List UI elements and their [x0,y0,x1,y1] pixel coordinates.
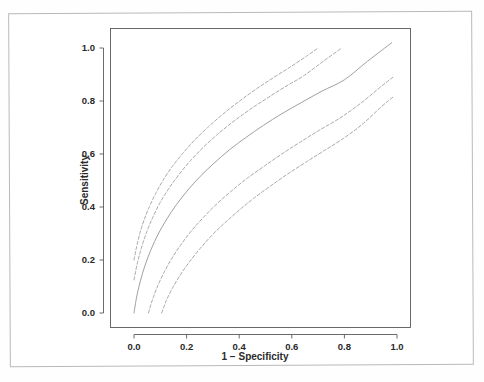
roc-plot-svg: 0.00.20.40.60.81.0 0.00.20.40.60.81.0 1 … [0,0,484,382]
roc-curve-line [162,97,393,313]
y-axis-title: Sensitivity [79,155,90,205]
figure-page: 0.00.20.40.60.81.0 0.00.20.40.60.81.0 1 … [0,0,484,382]
roc-curve-line [148,77,393,313]
roc-curves-group [134,43,393,313]
x-axis-tick-label: 1.0 [390,341,403,352]
y-axis-tick-label: 0.8 [82,95,95,106]
y-axis-ticks [100,48,104,313]
x-axis-tick-label: 0.2 [180,341,193,352]
roc-curve-line [134,43,392,313]
x-axis-tick-label: 0.8 [338,341,351,352]
plot-frame [111,29,411,328]
roc-chart-figure: 0.00.20.40.60.81.0 0.00.20.40.60.81.0 1 … [0,0,484,382]
x-axis-tick-label: 0.0 [127,341,140,352]
x-axis-title: 1 − Specificity [222,351,289,362]
y-axis-tick-label: 0.2 [82,254,95,265]
roc-curve-line [134,48,342,280]
x-axis-ticks [134,335,397,339]
y-axis-tick-label: 0.0 [82,307,95,318]
y-axis-tick-label: 1.0 [82,42,95,53]
